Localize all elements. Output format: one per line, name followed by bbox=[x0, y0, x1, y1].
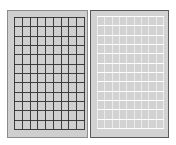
grid-horizontal-line bbox=[14, 92, 85, 93]
grid-horizontal-line bbox=[14, 54, 85, 55]
grid-horizontal-line bbox=[14, 82, 85, 83]
grid-horizontal-line bbox=[14, 110, 85, 111]
grid-horizontal-line bbox=[97, 16, 164, 17]
dark-grid-panel bbox=[7, 10, 88, 138]
light-grid-panel bbox=[90, 10, 169, 138]
dark-grid bbox=[14, 17, 84, 129]
grid-horizontal-line bbox=[97, 128, 164, 129]
grid-horizontal-line bbox=[97, 91, 164, 92]
grid-horizontal-line bbox=[14, 129, 85, 130]
grid-horizontal-line bbox=[97, 81, 164, 82]
grid-horizontal-line bbox=[97, 119, 164, 120]
light-grid bbox=[97, 16, 163, 128]
grid-horizontal-line bbox=[97, 109, 164, 110]
grid-horizontal-line bbox=[14, 36, 85, 37]
grid-horizontal-line bbox=[97, 100, 164, 101]
grid-horizontal-line bbox=[97, 25, 164, 26]
grid-horizontal-line bbox=[14, 45, 85, 46]
grid-horizontal-line bbox=[97, 44, 164, 45]
grid-horizontal-line bbox=[14, 64, 85, 65]
grid-horizontal-line bbox=[14, 120, 85, 121]
grid-horizontal-line bbox=[14, 73, 85, 74]
grid-horizontal-line bbox=[97, 53, 164, 54]
grid-horizontal-line bbox=[14, 26, 85, 27]
grid-horizontal-line bbox=[14, 101, 85, 102]
grid-horizontal-line bbox=[97, 63, 164, 64]
grid-horizontal-line bbox=[14, 17, 85, 18]
grid-horizontal-line bbox=[97, 72, 164, 73]
grid-horizontal-line bbox=[97, 35, 164, 36]
